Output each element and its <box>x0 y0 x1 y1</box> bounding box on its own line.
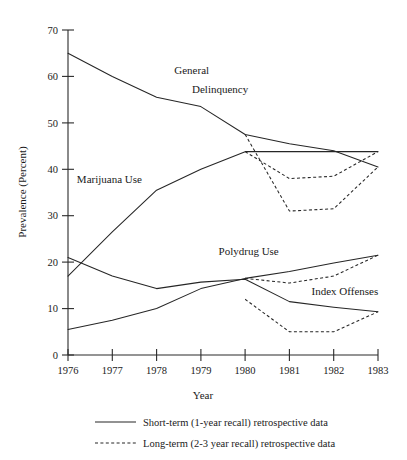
x-tick-label: 1981 <box>279 365 300 376</box>
x-tick-1977: 1977 <box>102 349 123 376</box>
y-tick-30: 30 <box>48 210 75 221</box>
y-tick-10: 10 <box>48 303 75 314</box>
y-axis-ticks: 0 10 20 30 40 50 <box>48 25 75 361</box>
series-annotation-index-offenses: Index Offenses <box>312 285 379 297</box>
series-line-general-delinquency-long-term <box>245 134 378 211</box>
x-tick-1979: 1979 <box>190 349 211 376</box>
series-annotation-marijuana-use: Marijuana Use <box>77 173 142 185</box>
series-line-marijuana-use-long-term <box>245 152 378 179</box>
x-axis-title: Year <box>193 389 214 401</box>
y-tick-60: 60 <box>48 71 75 82</box>
x-tick-label: 1976 <box>58 365 79 376</box>
y-tick-50: 50 <box>48 118 75 129</box>
y-tick-40: 40 <box>48 164 75 175</box>
legend-entry-long-term: Long-term (2-3 year recall) retrospectiv… <box>95 438 335 450</box>
x-tick-label: 1980 <box>235 365 256 376</box>
y-tick-label: 40 <box>48 164 59 175</box>
series-line-marijuana-use <box>68 152 378 276</box>
y-tick-0: 0 <box>53 350 74 361</box>
x-axis-ticks: 1976 1977 1978 1979 1980 1981 <box>58 349 389 376</box>
x-tick-label: 1977 <box>102 365 123 376</box>
y-tick-label: 30 <box>48 210 59 221</box>
series-annotations-layer: GeneralDelinquencyMarijuana UsePolydrug … <box>77 64 378 297</box>
x-tick-label: 1979 <box>190 365 211 376</box>
x-tick-1981: 1981 <box>279 349 300 376</box>
series-annotation-polydrug-use: Polydrug Use <box>219 245 279 257</box>
prevalence-line-chart: 0 10 20 30 40 50 <box>0 0 407 460</box>
legend-label-short-term: Short-term (1-year recall) retrospective… <box>143 417 328 429</box>
legend-label-long-term: Long-term (2-3 year recall) retrospectiv… <box>143 438 335 450</box>
y-tick-label: 70 <box>48 25 59 36</box>
x-tick-label: 1978 <box>146 365 167 376</box>
series-line-general-delinquency <box>68 53 378 167</box>
y-tick-label: 60 <box>48 71 59 82</box>
y-tick-label: 10 <box>48 303 59 314</box>
y-tick-70: 70 <box>48 25 75 36</box>
x-tick-1980: 1980 <box>235 349 256 376</box>
series-line-polydrug-use-long-term <box>245 255 378 283</box>
y-tick-label: 0 <box>53 350 58 361</box>
x-tick-1982: 1982 <box>323 349 344 376</box>
y-axis-title: Prevalence (Percent) <box>16 146 29 238</box>
legend-entry-short-term: Short-term (1-year recall) retrospective… <box>95 417 328 429</box>
x-tick-1976: 1976 <box>58 349 79 376</box>
axes <box>68 30 378 355</box>
x-tick-1978: 1978 <box>146 349 167 376</box>
y-tick-label: 50 <box>48 118 59 129</box>
chart-figure: 0 10 20 30 40 50 <box>0 0 407 460</box>
series-annotation-general: General <box>174 64 209 76</box>
series-annotation-delinquency: Delinquency <box>192 83 249 95</box>
x-tick-label: 1983 <box>368 365 389 376</box>
x-tick-1983: 1983 <box>368 349 389 376</box>
x-tick-label: 1982 <box>323 365 344 376</box>
chart-legend: Short-term (1-year recall) retrospective… <box>95 417 335 450</box>
y-tick-label: 20 <box>48 257 59 268</box>
